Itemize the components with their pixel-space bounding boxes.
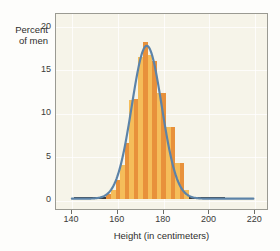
y-axis-tick-labels: 05101520 [0,0,51,251]
y-axis-tick-label: 10 [41,108,51,117]
x-axis-tick-label: 160 [97,214,137,224]
y-axis-tick-label: 5 [46,152,51,161]
normal-density-curve [56,14,267,209]
y-axis-tick-label: 15 [41,65,51,74]
x-axis-tick-mark [117,210,118,214]
x-axis-tick-mark [208,210,209,214]
x-axis-tick-label: 200 [188,214,228,224]
chart-figure: Percent of men 05101520 140160180200220 … [0,0,280,251]
x-axis-tick-mark [163,210,164,214]
y-axis-tick-label: 0 [46,195,51,204]
plot-area [55,13,268,210]
x-axis-label: Height (in centimeters) [55,230,268,241]
x-axis-tick-mark [71,210,72,214]
y-axis-tick-label: 20 [41,22,51,31]
data-layer [56,14,267,209]
x-axis-tick-label: 140 [51,214,91,224]
x-axis-tick-label: 180 [143,214,183,224]
x-axis-tick-label: 220 [234,214,274,224]
x-axis-tick-mark [254,210,255,214]
